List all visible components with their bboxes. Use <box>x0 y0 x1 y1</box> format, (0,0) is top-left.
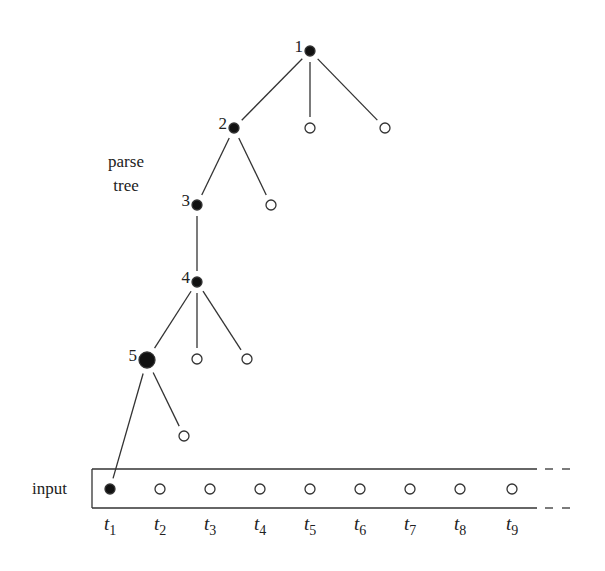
token-label: t4 <box>254 513 266 538</box>
node-number-label: 1 <box>295 37 304 56</box>
tree-edge <box>242 59 303 120</box>
tree-node-empty <box>380 123 390 133</box>
input-label: input <box>32 479 67 498</box>
tree-node-empty <box>266 200 276 210</box>
input-token-dot <box>305 484 315 494</box>
node-number-label: 2 <box>219 114 228 133</box>
tree-node-filled <box>229 123 239 133</box>
tree-nodes: 12345 <box>129 37 391 441</box>
input-token-dot <box>255 484 265 494</box>
token-label: t9 <box>506 513 518 538</box>
input-token-dot <box>405 484 415 494</box>
tree-edge <box>155 291 192 348</box>
tree-node-empty <box>179 431 189 441</box>
input-token-dot <box>155 484 165 494</box>
tree-node-empty <box>242 354 252 364</box>
tree-node-empty <box>192 354 202 364</box>
tree-edge <box>113 373 143 478</box>
input-token-dot <box>105 484 115 494</box>
node-number-label: 3 <box>182 191 191 210</box>
token-label: t3 <box>204 513 216 538</box>
input-tokens <box>105 484 517 494</box>
token-label: t2 <box>154 513 166 538</box>
parse-tree-label-line2: tree <box>113 176 138 195</box>
tree-edges <box>113 59 377 479</box>
tree-node-filled <box>192 277 202 287</box>
token-labels: t1t2t3t4t5t6t7t8t9 <box>104 513 518 538</box>
tree-edge <box>318 59 378 120</box>
parse-tree-diagram: 12345 t1t2t3t4t5t6t7t8t9 parse tree inpu… <box>0 0 605 571</box>
tree-edge <box>239 138 266 195</box>
tree-node-empty <box>305 123 315 133</box>
input-token-dot <box>205 484 215 494</box>
input-token-dot <box>455 484 465 494</box>
node-number-label: 5 <box>129 346 138 365</box>
parse-tree-label-line1: parse <box>108 152 144 171</box>
input-token-dot <box>507 484 517 494</box>
input-token-dot <box>355 484 365 494</box>
tree-node-filled <box>305 46 315 56</box>
token-label: t6 <box>354 513 366 538</box>
token-label: t1 <box>104 513 116 538</box>
tree-edge <box>203 291 241 350</box>
token-label: t7 <box>404 513 416 538</box>
token-label: t8 <box>454 513 466 538</box>
tree-node-filled <box>139 352 155 368</box>
tree-node-filled <box>192 200 202 210</box>
tree-edge <box>153 373 179 427</box>
token-label: t5 <box>304 513 316 538</box>
node-number-label: 4 <box>182 268 191 287</box>
tree-edge <box>202 138 229 195</box>
